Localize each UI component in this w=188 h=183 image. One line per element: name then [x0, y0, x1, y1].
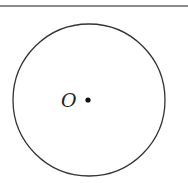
center-point [85, 97, 90, 102]
circle-diagram: O [0, 0, 188, 183]
center-label: O [61, 89, 77, 111]
